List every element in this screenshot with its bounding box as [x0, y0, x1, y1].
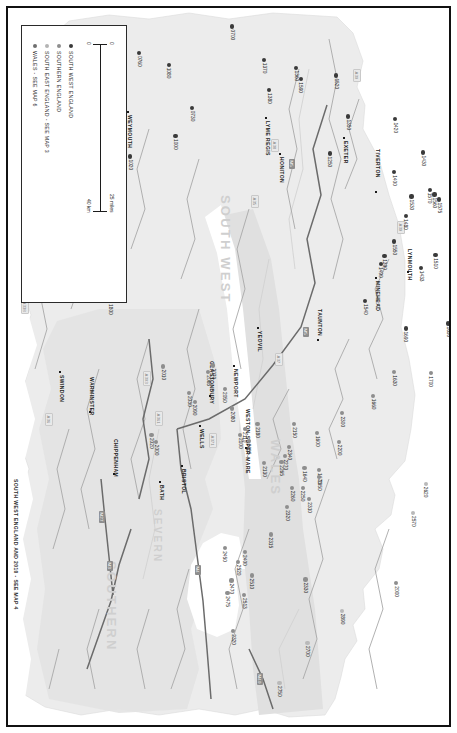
map-point-1700-40[interactable] — [428, 371, 432, 375]
map-point-1380-14[interactable] — [266, 87, 270, 91]
map-point-2570-84[interactable] — [411, 510, 415, 514]
map-point-1590-16[interactable] — [298, 77, 302, 81]
map-point-1570-24[interactable] — [427, 187, 431, 191]
map-point-2260-68[interactable] — [289, 485, 293, 489]
map-point-2180-53[interactable] — [255, 422, 259, 426]
map-point-label-1800-64: 1800 — [107, 304, 112, 315]
map-point-1530-23[interactable] — [409, 194, 413, 198]
map-point-2320-80[interactable] — [231, 629, 235, 633]
map-point-2330-81[interactable] — [303, 577, 307, 581]
city-dot-bath — [159, 481, 161, 483]
map-point-2250-67[interactable] — [300, 485, 304, 489]
map-point-label-1630-41: 1630 — [391, 375, 396, 386]
map-point-1080-10[interactable] — [166, 62, 170, 66]
map-point-1390-29[interactable] — [382, 254, 386, 258]
map-point-2315-72[interactable] — [268, 532, 272, 536]
city-label-bristol: BRISTOL — [181, 469, 187, 494]
map-point-2510-76[interactable] — [249, 573, 253, 577]
map-point-1540-33[interactable] — [363, 298, 367, 302]
map-point-1420-20[interactable] — [393, 117, 397, 121]
map-point-label-2050-58: 2050 — [222, 391, 227, 402]
map-point-2020-65[interactable] — [149, 432, 153, 436]
map-point-1000-12[interactable] — [173, 133, 177, 137]
map-point-1550-28[interactable] — [392, 239, 396, 243]
map-point-1575-26[interactable] — [437, 197, 441, 201]
map-point-label-1430-22: 1430 — [420, 155, 425, 166]
map-point-1660-42[interactable] — [370, 393, 374, 397]
map-point-1490-30[interactable] — [378, 261, 382, 265]
map-point-2475-78[interactable] — [225, 591, 229, 595]
map-point-2065-60[interactable] — [206, 370, 210, 374]
map-point-1360-15[interactable] — [293, 65, 297, 69]
map-point-1480-27[interactable] — [403, 213, 407, 217]
map-point-label-2070-59: 2070 — [210, 368, 215, 379]
map-point-label-1380-14: 1380 — [266, 93, 271, 104]
map-point-label-2315-72: 2315 — [268, 537, 273, 548]
map-point-0760-1[interactable] — [136, 50, 140, 54]
map-point-1350-18[interactable] — [345, 114, 349, 118]
map-point-2513-79[interactable] — [241, 592, 245, 596]
map-point-2700-82[interactable] — [305, 640, 309, 644]
map-point-1600-44[interactable] — [315, 430, 319, 434]
map-point-2270-50[interactable] — [283, 454, 287, 458]
map-point-1560-25[interactable] — [432, 192, 436, 196]
city-dot-bristol — [181, 465, 183, 467]
map-point-2085-56[interactable] — [246, 438, 250, 442]
map-point-label-2475-78: 2475 — [225, 596, 230, 607]
map-point-2030-62[interactable] — [186, 390, 190, 394]
map-point-2890-86[interactable] — [340, 608, 344, 612]
map-point-label-1530-23: 1530 — [409, 199, 414, 210]
map-point-label-2320-71: 2320 — [284, 510, 289, 521]
map-point-2310-70[interactable] — [307, 497, 311, 501]
map-point-2320-71[interactable] — [285, 505, 289, 509]
map-point-2340-49[interactable] — [287, 444, 291, 448]
map-point-1690-37[interactable] — [403, 326, 407, 330]
map-point-2520-75[interactable] — [236, 559, 240, 563]
map-point-0700-0[interactable] — [230, 24, 234, 28]
city-label-yeovil: YEOVIL — [257, 331, 263, 352]
map-point-2200-47[interactable] — [337, 439, 341, 443]
map-point-1630-41[interactable] — [392, 370, 396, 374]
map-point-1670-45[interactable] — [316, 467, 320, 471]
city-label-warminster: WARMINSTER — [89, 377, 95, 416]
map-point-label-0730-11: 0730 — [189, 110, 194, 121]
map-point-2265-51[interactable] — [279, 460, 283, 464]
map-point-2110-54[interactable] — [242, 426, 246, 430]
map-point-1250-19[interactable] — [327, 151, 331, 155]
map-point-1650-38[interactable] — [445, 321, 449, 325]
city-label-honiton: HONITON — [279, 157, 285, 183]
map-point-2750-83[interactable] — [277, 680, 281, 684]
map-point-2620-85[interactable] — [423, 481, 427, 485]
map-root: SOUTH WEST SOUTHERN WALES SEVERN SOUTH W… — [0, 0, 457, 733]
map-point-2000-87[interactable] — [393, 581, 397, 585]
map-point-2090-61[interactable] — [192, 399, 196, 403]
city-dot-minehead — [375, 277, 377, 279]
map-point-1430-22[interactable] — [420, 150, 424, 154]
map-point-1510-32[interactable] — [433, 253, 437, 257]
map-point-1020-9[interactable] — [128, 154, 132, 158]
map-point-1370-13[interactable] — [262, 57, 266, 61]
map-point-2450-74[interactable] — [222, 546, 226, 550]
map-point-2130-52[interactable] — [262, 461, 266, 465]
map-point-label-2090-61: 2090 — [192, 404, 197, 415]
map-point-0730-11[interactable] — [189, 105, 193, 109]
map-point-2080-57[interactable] — [230, 406, 234, 410]
map-point-2400-73[interactable] — [242, 550, 246, 554]
map-point-label-0700-0: 0700 — [229, 29, 234, 40]
map-point-label-1420-20: 1420 — [392, 122, 397, 133]
map-point-2100-55[interactable] — [238, 432, 242, 436]
map-point-1640-46[interactable] — [302, 465, 306, 469]
map-point-1400-21[interactable] — [392, 170, 396, 174]
map-point-2010-63[interactable] — [160, 364, 164, 368]
map-point-1433-31[interactable] — [419, 265, 423, 269]
map-point-2050-58[interactable] — [222, 386, 226, 390]
map-point-2300-43[interactable] — [340, 411, 344, 415]
legend-dot-southern — [57, 44, 61, 48]
map-point-2350-69[interactable] — [316, 474, 320, 478]
map-point-2470-77[interactable] — [229, 578, 233, 582]
map-point-2150-48[interactable] — [291, 422, 295, 426]
map-point-2000-66[interactable] — [154, 439, 158, 443]
map-point-label-2400-73: 2400 — [242, 555, 247, 566]
map-point-2070-59[interactable] — [211, 363, 215, 367]
map-point-1520-17[interactable] — [334, 73, 338, 77]
